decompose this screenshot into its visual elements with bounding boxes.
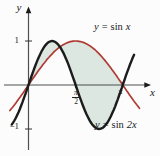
eq1-var: y: [94, 21, 99, 32]
x-tick-label-pi-over-2: π 2: [72, 89, 81, 106]
eq1-argument: x: [126, 21, 131, 32]
y-axis-arrow-icon: [26, 7, 32, 14]
y-axis-label: y: [17, 2, 22, 13]
fraction-denominator: 2: [72, 98, 81, 106]
curve-label-sin2x: y=sin2x: [95, 120, 137, 131]
eq1-equals: =: [102, 21, 108, 32]
eq2-function: sin: [112, 119, 124, 130]
y-tick-label-1: 1: [6, 36, 19, 45]
y-tick-label-neg1: −1: [1, 122, 19, 131]
plot-svg: [0, 0, 160, 156]
curve-label-sinx: y=sinx: [94, 22, 131, 33]
x-axis-label: x: [150, 87, 155, 98]
eq2-equals: =: [103, 119, 109, 130]
sine-curves-figure: y x 1 −1 π 2 π y=sinx y=sin2x: [0, 0, 160, 156]
eq2-argument: 2x: [127, 119, 137, 130]
eq2-var: y: [95, 119, 100, 130]
x-tick-label-pi: π: [119, 88, 123, 96]
eq1-function: sin: [111, 21, 123, 32]
